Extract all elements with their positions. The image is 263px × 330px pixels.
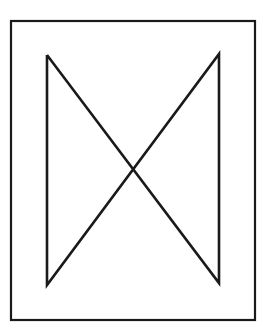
diagram-svg — [0, 0, 263, 330]
bowtie-figure — [47, 54, 219, 285]
diagram-canvas — [0, 0, 263, 330]
